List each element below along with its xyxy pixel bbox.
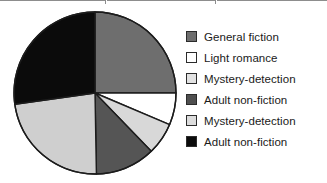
legend-item-adult-non-fiction-1[interactable]: Adult non-fiction: [186, 89, 324, 110]
top-tick-2: [215, 0, 216, 4]
pie-svg: [8, 6, 186, 183]
legend-label-general-fiction: General fiction: [204, 31, 279, 43]
legend-item-light-romance[interactable]: Light romance: [186, 47, 324, 68]
legend-swatch-light-romance: [186, 52, 197, 63]
legend-item-mystery-detection-2[interactable]: Mystery-detection: [186, 110, 324, 131]
legend-swatch-adult-non-fiction-2: [186, 136, 197, 147]
pie-chart-figure: General fiction Light romance Mystery-de…: [0, 0, 327, 183]
legend-swatch-general-fiction: [186, 31, 197, 42]
legend-item-mystery-detection-1[interactable]: Mystery-detection: [186, 68, 324, 89]
legend-label-mystery-detection-1: Mystery-detection: [204, 73, 296, 85]
legend-swatch-adult-non-fiction-1: [186, 94, 197, 105]
legend-swatch-mystery-detection-1: [186, 73, 197, 84]
top-rule-segment-1: [0, 0, 105, 1]
legend-item-adult-non-fiction-2[interactable]: Adult non-fiction: [186, 131, 324, 152]
pie-slice-group: [14, 12, 176, 174]
pie-slice-1[interactable]: [95, 12, 176, 93]
top-rule-segment-3: [217, 0, 327, 1]
legend-label-adult-non-fiction-1: Adult non-fiction: [204, 94, 287, 106]
pie-graphic: [8, 6, 186, 183]
top-tick-1: [105, 0, 106, 4]
pie-slice-6[interactable]: [14, 12, 95, 104]
legend-label-mystery-detection-2: Mystery-detection: [204, 115, 296, 127]
legend-item-general-fiction[interactable]: General fiction: [186, 26, 324, 47]
pie-slice-5[interactable]: [15, 93, 97, 174]
top-rule-segment-2: [107, 0, 215, 1]
legend-swatch-mystery-detection-2: [186, 115, 197, 126]
legend: General fiction Light romance Mystery-de…: [186, 26, 324, 152]
legend-label-adult-non-fiction-2: Adult non-fiction: [204, 136, 287, 148]
legend-label-light-romance: Light romance: [204, 52, 278, 64]
